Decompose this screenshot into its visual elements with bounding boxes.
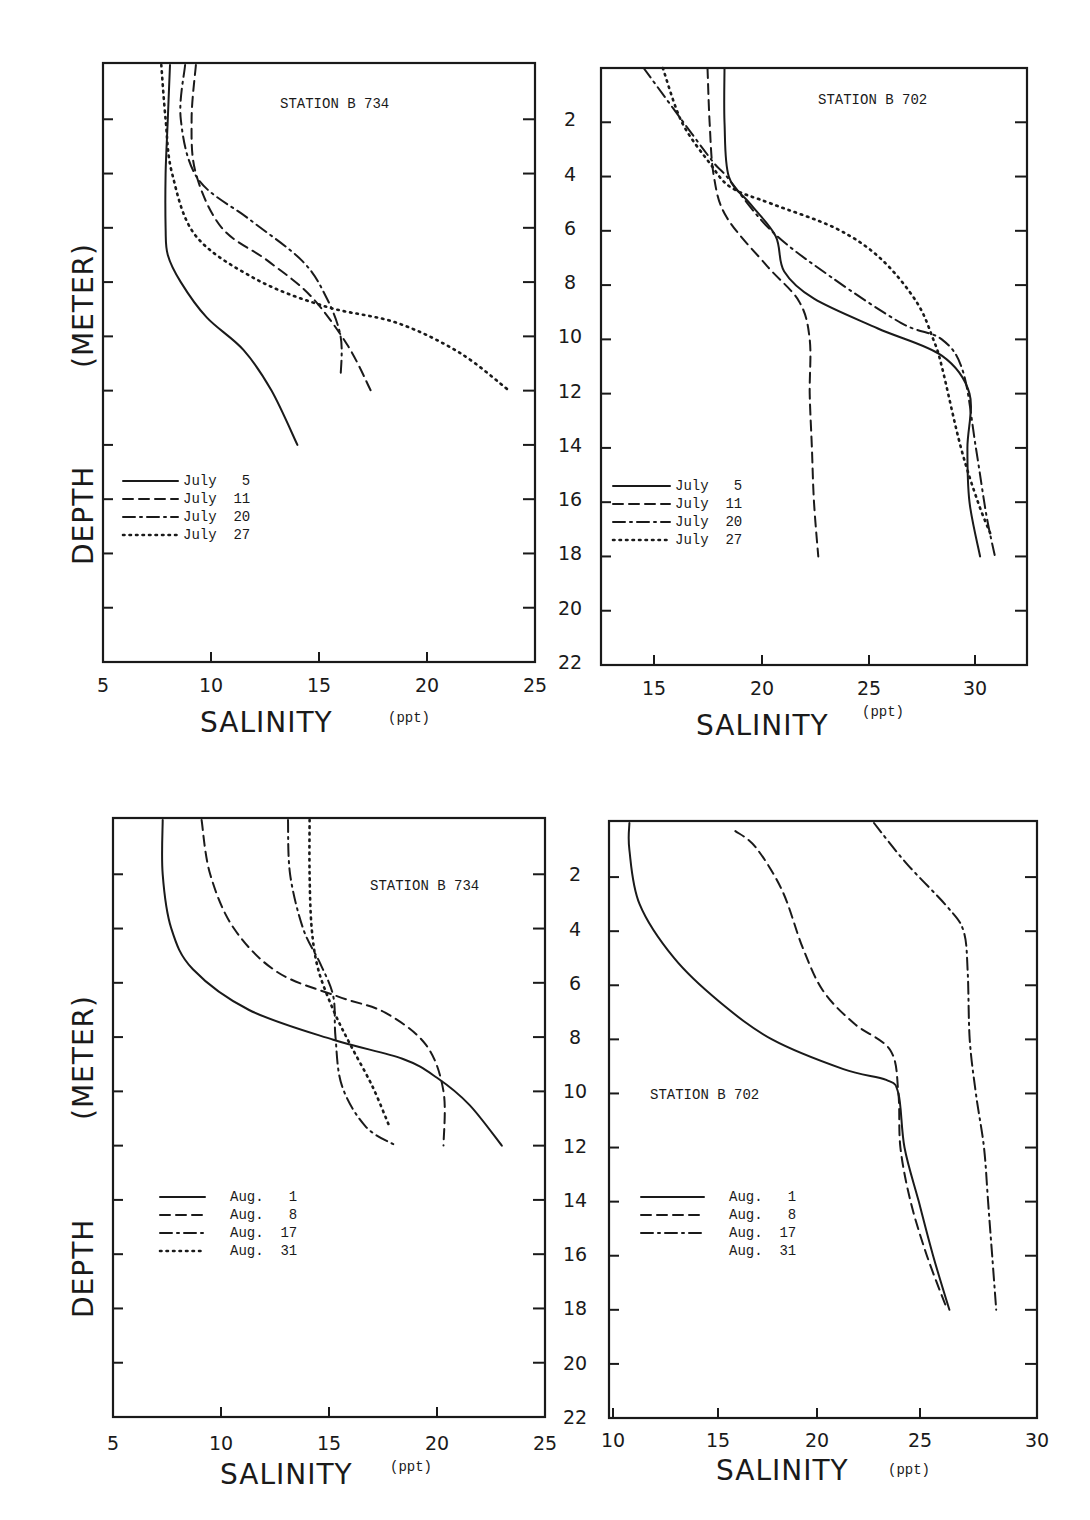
x-axis-title: SALINITY: [716, 1454, 849, 1487]
y-axis-title-depth-top: DEPTH: [67, 466, 100, 565]
legend-label: July 20: [183, 509, 250, 525]
legend-label: Aug. 31: [729, 1243, 796, 1259]
depth-tick-label: 20: [558, 597, 582, 619]
legend-label: July 11: [183, 491, 250, 507]
x-tick-label: 15: [706, 1429, 730, 1451]
x-tick-label: 10: [199, 674, 223, 696]
depth-tick-label: 16: [558, 488, 582, 510]
legend: Aug. 1Aug. 8Aug. 17Aug. 31: [641, 1189, 796, 1259]
x-tick-label: 20: [425, 1432, 449, 1454]
profile-curve-july-5: [165, 65, 297, 445]
x-axis-unit: (ppt): [888, 1462, 930, 1478]
depth-tick-label: 8: [564, 271, 576, 293]
legend-label: July 20: [675, 514, 742, 530]
depth-tick-label: 22: [563, 1406, 587, 1428]
x-tick-label: 25: [523, 674, 547, 696]
profile-curve-july-11: [192, 65, 371, 391]
depth-tick-label: 14: [558, 434, 582, 456]
profile-curve-aug-17: [874, 823, 996, 1310]
x-tick-label: 30: [963, 677, 987, 699]
x-axis-title: SALINITY: [220, 1458, 353, 1491]
legend: July 5July 11July 20July 27: [123, 473, 250, 543]
legend: July 5July 11July 20July 27: [613, 478, 742, 548]
legend-label: Aug. 1: [729, 1189, 796, 1205]
depth-tick-label: 14: [563, 1189, 587, 1211]
legend-label: Aug. 8: [729, 1207, 796, 1223]
depth-tick-label: 16: [563, 1243, 587, 1265]
legend-label: Aug. 1: [230, 1189, 297, 1205]
depth-tick-label: 22: [558, 651, 582, 673]
legend: Aug. 1Aug. 8Aug. 17Aug. 31: [160, 1189, 297, 1259]
x-axis-title: SALINITY: [200, 706, 333, 739]
x-axis-unit: (ppt): [862, 704, 904, 720]
station-label: STATION B 734: [280, 96, 389, 112]
depth-tick-label: 4: [564, 163, 576, 185]
legend-label: July 11: [675, 496, 742, 512]
depth-tick-labels: 246810121416182022246810121416182022: [558, 108, 587, 1428]
legend-label: Aug. 17: [230, 1225, 297, 1241]
legend-label: Aug. 17: [729, 1225, 796, 1241]
station-label: STATION B 734: [370, 878, 479, 894]
legend-label: July 5: [675, 478, 742, 494]
x-tick-label: 5: [97, 674, 109, 696]
x-tick-label: 25: [908, 1429, 932, 1451]
plot-frame: [601, 68, 1027, 665]
x-axis-unit: (ppt): [388, 710, 430, 726]
y-axis-title-depth-bottom: DEPTH: [67, 1219, 100, 1318]
legend-label: Aug. 8: [230, 1207, 297, 1223]
depth-tick-label: 10: [558, 325, 582, 347]
legend-label: July 27: [183, 527, 250, 543]
depth-tick-label: 20: [563, 1352, 587, 1374]
depth-tick-label: 6: [569, 972, 581, 994]
legend-label: July 27: [675, 532, 742, 548]
depth-tick-label: 4: [569, 918, 581, 940]
chart-panel-bottom-right: 1015202530SALINITY(ppt)STATION B 702Aug.…: [601, 821, 1049, 1487]
x-tick-label: 5: [107, 1432, 119, 1454]
depth-tick-label: 18: [563, 1297, 587, 1319]
x-tick-label: 10: [209, 1432, 233, 1454]
depth-tick-label: 6: [564, 217, 576, 239]
x-axis-title: SALINITY: [696, 709, 829, 742]
station-label: STATION B 702: [650, 1087, 759, 1103]
depth-tick-label: 18: [558, 542, 582, 564]
station-label: STATION B 702: [818, 92, 927, 108]
legend-label: Aug. 31: [230, 1243, 297, 1259]
depth-tick-label: 10: [563, 1080, 587, 1102]
chart-panel-top-right: 15202530SALINITY(ppt)STATION B 702July 5…: [601, 68, 1027, 742]
profile-curve-aug-31: [309, 820, 389, 1127]
plot-frame: [103, 63, 535, 662]
x-tick-label: 20: [415, 674, 439, 696]
plot-frame: [609, 821, 1037, 1418]
legend-label: July 5: [183, 473, 250, 489]
depth-tick-label: 2: [564, 108, 576, 130]
x-tick-label: 10: [601, 1429, 625, 1451]
x-tick-label: 20: [805, 1429, 829, 1451]
x-tick-label: 20: [750, 677, 774, 699]
y-axis-title-meter-bottom: (METER): [67, 995, 100, 1120]
profile-curve-aug-17: [288, 820, 396, 1146]
x-tick-label: 30: [1025, 1429, 1049, 1451]
x-tick-label: 25: [533, 1432, 557, 1454]
figure-canvas: DEPTH (METER) DEPTH (METER) 510152025SAL…: [0, 0, 1090, 1520]
profile-curve-july-5: [724, 68, 980, 557]
depth-tick-label: 12: [563, 1135, 587, 1157]
depth-tick-label: 12: [558, 380, 582, 402]
x-tick-label: 15: [642, 677, 666, 699]
depth-tick-label: 2: [569, 863, 581, 885]
x-tick-label: 25: [857, 677, 881, 699]
x-axis-unit: (ppt): [390, 1459, 432, 1475]
x-tick-label: 15: [307, 674, 331, 696]
depth-tick-label: 8: [569, 1026, 581, 1048]
chart-panel-bottom-left: 510152025SALINITY(ppt)STATION B 734Aug. …: [107, 818, 557, 1491]
chart-panel-top-left: 510152025SALINITY(ppt)STATION B 734July …: [97, 63, 547, 739]
x-tick-label: 15: [317, 1432, 341, 1454]
profile-curve-july-27: [663, 68, 991, 535]
profile-curve-july-27: [161, 65, 509, 391]
profile-curve-aug-1: [162, 820, 502, 1146]
y-axis-title-meter-top: (METER): [67, 243, 100, 368]
